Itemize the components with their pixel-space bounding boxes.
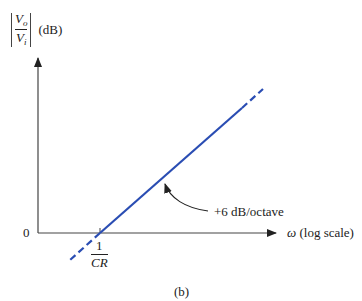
origin-label: 0 bbox=[23, 226, 30, 239]
corner-frequency-label: 1 CR bbox=[91, 239, 108, 269]
corner-denominator: CR bbox=[91, 256, 108, 270]
slope-annotation-arrow bbox=[165, 184, 208, 211]
panel-label: (b) bbox=[174, 285, 189, 298]
omega-symbol: ω bbox=[287, 225, 296, 240]
vo-symbol: V bbox=[15, 11, 23, 26]
asymptote-dashed-upper bbox=[242, 89, 263, 108]
y-axis-label: Vo Vi (dB) bbox=[11, 12, 62, 48]
abs-bar-right bbox=[30, 13, 31, 47]
x-axis-label: ω (log scale) bbox=[287, 226, 354, 239]
slope-annotation: +6 dB/octave bbox=[214, 205, 284, 218]
y-axis-unit: (dB) bbox=[38, 23, 62, 36]
abs-bar-left bbox=[11, 13, 12, 47]
vo-subscript: o bbox=[23, 18, 28, 28]
corner-numerator: 1 bbox=[96, 239, 103, 253]
vi-subscript: i bbox=[24, 37, 27, 47]
x-axis-scale: (log scale) bbox=[299, 225, 354, 240]
voltage-ratio-fraction: Vo Vi bbox=[15, 12, 27, 48]
vi-symbol: V bbox=[16, 30, 24, 45]
